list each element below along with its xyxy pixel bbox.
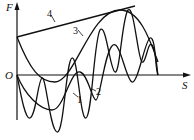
curve-4-label: 4 xyxy=(47,9,52,19)
curve-2-label: 2 xyxy=(96,87,101,97)
label-3-leader xyxy=(78,30,83,36)
f-axis-label: F xyxy=(6,2,13,13)
f-axis-arrow-icon xyxy=(15,2,20,10)
origin-label: O xyxy=(5,70,13,81)
curve-3 xyxy=(17,10,158,82)
curve-3-label: 3 xyxy=(73,26,78,36)
force-displacement-diagram: F O S 4 3 1 2 xyxy=(0,0,194,140)
s-axis-arrow-icon xyxy=(183,73,191,78)
curve-1 xyxy=(17,10,158,132)
diagram-svg xyxy=(0,0,194,140)
curve-2 xyxy=(17,38,158,110)
s-axis-label: S xyxy=(182,80,188,91)
curve-1-label: 1 xyxy=(77,95,82,105)
